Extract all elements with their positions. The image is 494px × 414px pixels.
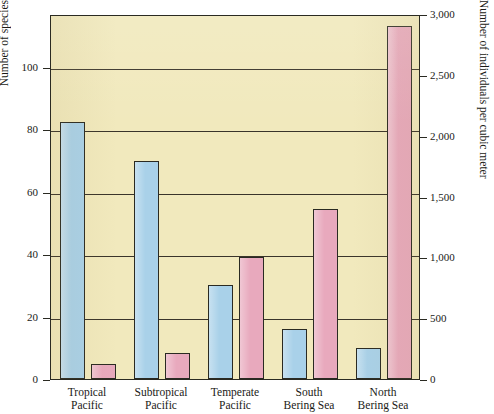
y-tick-label-left: 100 xyxy=(0,62,38,73)
x-axis-category-label: NorthBering Sea xyxy=(333,386,433,412)
bar-individuals-0 xyxy=(91,364,116,379)
y-tick-label-right: 1,500 xyxy=(430,192,455,203)
y-tick-label-right: 2,500 xyxy=(430,70,455,81)
y-tick-label-right: 2,000 xyxy=(430,131,455,142)
y-tick-label-right: 0 xyxy=(430,374,436,385)
y-tick-right xyxy=(420,76,427,77)
y-tick-right xyxy=(420,137,427,138)
y-tick-right xyxy=(420,380,427,381)
bar-individuals-4 xyxy=(387,26,412,379)
y-tick-label-right: 1,000 xyxy=(430,252,455,263)
y-tick-label-left: 20 xyxy=(0,312,38,323)
y-tick-label-left: 0 xyxy=(0,374,38,385)
y-tick-label-left: 60 xyxy=(0,187,38,198)
plot-area xyxy=(50,15,420,380)
y-tick-label-right: 500 xyxy=(430,313,447,324)
bar-individuals-1 xyxy=(165,353,190,379)
y-tick-left xyxy=(43,193,50,194)
bar-individuals-2 xyxy=(239,257,264,379)
y-tick-left xyxy=(43,380,50,381)
y-tick-left xyxy=(43,68,50,69)
y-tick-label-right: 3,000 xyxy=(430,9,455,20)
y-tick-left xyxy=(43,130,50,131)
bar-individuals-3 xyxy=(313,209,338,379)
y-tick-right xyxy=(420,198,427,199)
y-axis-right-title: Number of individuals per cubic meter xyxy=(472,0,490,179)
bar-species-1 xyxy=(134,161,159,379)
chart-root: Number of species Number of individuals … xyxy=(0,0,494,414)
x-axis-category-label-line: Bering Sea xyxy=(333,399,433,412)
bars-layer xyxy=(51,16,419,379)
y-tick-right xyxy=(420,15,427,16)
y-tick-label-left: 80 xyxy=(0,124,38,135)
bar-species-4 xyxy=(356,348,381,379)
bar-species-2 xyxy=(208,285,233,379)
x-axis-category-label-line: North xyxy=(333,386,433,399)
bar-species-0 xyxy=(60,122,85,379)
y-tick-right xyxy=(420,319,427,320)
y-tick-right xyxy=(420,258,427,259)
y-axis-left-title: Number of species xyxy=(0,0,14,86)
y-tick-label-left: 40 xyxy=(0,249,38,260)
y-tick-left xyxy=(43,318,50,319)
bar-species-3 xyxy=(282,329,307,379)
y-tick-left xyxy=(43,255,50,256)
